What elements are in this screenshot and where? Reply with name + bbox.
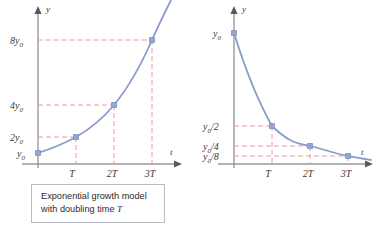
decay-xtick-T: T xyxy=(265,168,272,178)
growth-y-axis-label: y xyxy=(45,4,50,14)
growth-caption-line2-var: T xyxy=(117,204,122,214)
decay-point-y0-8 xyxy=(346,154,351,159)
decay-y-axis-label: y xyxy=(241,4,246,14)
growth-x-axis-arrowhead xyxy=(174,161,182,168)
decay-ytick-y0-2: y0/2 xyxy=(202,121,219,135)
decay-curve xyxy=(234,33,371,160)
growth-xtick-2T: 2T xyxy=(107,168,119,178)
decay-xtick-3T: 3T xyxy=(340,168,353,178)
growth-ytick-8y0: 8y0 xyxy=(10,35,23,49)
growth-caption-line2: with doubling time T xyxy=(41,203,156,216)
growth-curve xyxy=(38,0,171,153)
decay-plot: y t y0 y0/2 y0/4 y0/8 T 2T 3T xyxy=(191,0,383,178)
panel-exponential-decay: y t y0 y0/2 y0/4 y0/8 T 2T 3T Exponentia… xyxy=(191,0,383,228)
growth-y-axis-arrowhead xyxy=(34,6,41,14)
growth-caption-line2-prefix: with doubling time xyxy=(41,204,117,214)
growth-point-2y0 xyxy=(74,135,79,140)
growth-point-4y0 xyxy=(112,103,117,108)
decay-y-axis-arrowhead xyxy=(230,6,237,14)
growth-ytick-4y0: 4y0 xyxy=(10,100,23,114)
growth-xtick-T: T xyxy=(69,168,76,178)
panel-exponential-growth: y t 8y0 4y0 2y0 y0 T 2T 3T Exponential g… xyxy=(0,0,191,228)
decay-point-y0 xyxy=(232,31,237,36)
growth-caption-box: Exponential growth model with doubling t… xyxy=(31,184,165,223)
growth-plot: y t 8y0 4y0 2y0 y0 T 2T 3T xyxy=(0,0,191,178)
figure-container: y t 8y0 4y0 2y0 y0 T 2T 3T Exponential g… xyxy=(0,0,383,228)
growth-point-8y0 xyxy=(150,38,155,43)
growth-point-y0 xyxy=(36,151,41,156)
growth-ytick-2y0: 2y0 xyxy=(10,132,23,146)
decay-point-y0-2 xyxy=(270,124,275,129)
growth-ytick-y0: y0 xyxy=(16,148,25,162)
decay-ytick-y0-8: y0/8 xyxy=(202,151,219,165)
decay-ytick-y0: y0 xyxy=(212,28,221,42)
decay-x-axis-arrowhead xyxy=(365,161,373,168)
growth-caption-line1: Exponential growth model xyxy=(41,190,156,203)
growth-x-axis-label: t xyxy=(170,147,173,157)
decay-x-axis-label: t xyxy=(361,147,364,157)
growth-xtick-3T: 3T xyxy=(144,168,157,178)
decay-point-y0-4 xyxy=(308,144,313,149)
decay-xtick-2T: 2T xyxy=(303,168,315,178)
